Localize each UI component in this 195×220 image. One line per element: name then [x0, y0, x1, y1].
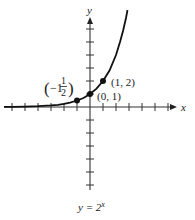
- exponential-graph: x y ( −1: [0, 0, 195, 220]
- point-0-1: [87, 91, 93, 97]
- point-neg1-half: [74, 98, 80, 104]
- point-label-neg1-half: ( −1 1 2 ): [44, 75, 74, 98]
- x-axis-arrow-icon: [170, 104, 177, 110]
- point-label-0-1: (0, 1): [97, 90, 121, 103]
- y-axis-label: y: [86, 4, 92, 16]
- svg-text:1: 1: [61, 75, 66, 86]
- point-label-1-2: (1, 2): [111, 76, 135, 89]
- svg-text:2: 2: [61, 87, 66, 98]
- svg-text:): ): [68, 79, 74, 98]
- chart-caption: y = 2x: [77, 200, 105, 213]
- point-1-2: [100, 78, 106, 84]
- x-axis-label: x: [180, 101, 186, 113]
- y-axis-arrow-icon: [87, 17, 93, 24]
